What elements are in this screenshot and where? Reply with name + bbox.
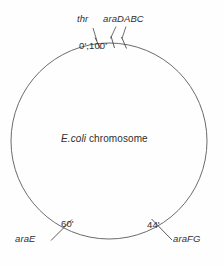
- locus-label-thr: thr: [77, 14, 88, 24]
- tick-aradabc-1: [111, 36, 115, 48]
- coordinate-label-60: 60': [61, 219, 74, 229]
- chromosome-word: chromosome: [89, 133, 148, 144]
- leader-aradabc-1: [111, 27, 117, 39]
- coordinate-label-origin: 0',100': [79, 41, 107, 51]
- locus-label-arae: araE: [15, 234, 35, 244]
- ecoli-chromosome-figure: thr araDABC 0',100' 60' araE 44' araFG E…: [0, 0, 224, 266]
- locus-label-aradabc: araDABC: [103, 14, 144, 24]
- tick-aradabc-2: [122, 37, 127, 49]
- locus-label-arafg: araFG: [173, 234, 200, 244]
- species-name: E.coli: [61, 133, 86, 144]
- leader-aradabc-2: [122, 27, 126, 39]
- chromosome-center-caption: E.coli chromosome: [61, 134, 148, 144]
- coordinate-label-44: 44': [147, 220, 160, 230]
